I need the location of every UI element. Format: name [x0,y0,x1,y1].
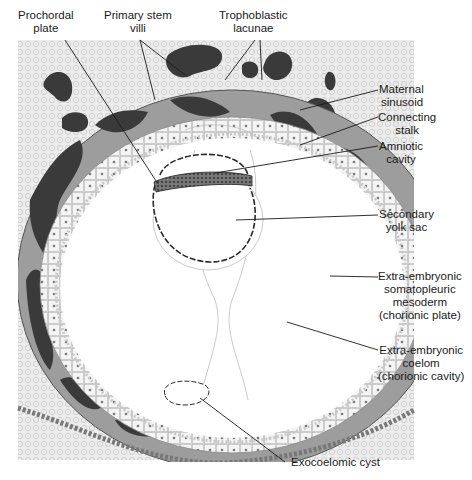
label-line: Exocoelomic cyst [291,456,380,469]
label-line: Trophoblastic [219,9,288,22]
label-line: lacunae [219,22,288,35]
label-line: Connecting [378,111,436,124]
label-maternal-sinusoid: Maternal sinusoid [379,83,424,109]
label-line: cavity [379,153,423,166]
label-line: yolk sac [379,221,434,234]
embryonic-disc-complex [153,154,263,270]
label-trophoblastic-lacunae: Trophoblastic lacunae [219,9,288,35]
label-somatopleuric-mesoderm: Extra-embryonic somatopleuric mesoderm (… [378,270,462,322]
label-connecting-stalk: Connecting stalk [378,111,436,137]
label-line: Amniotic [379,140,423,153]
label-line: mesoderm [378,296,462,309]
label-extraembryonic-coelom: Extra-embryonic coelom (chorionic cavity… [378,344,464,383]
label-line: coelom [378,357,464,370]
label-line: Extra-embryonic [378,344,464,357]
label-line: villi [104,22,172,35]
label-secondary-yolk-sac: Secondary yolk sac [379,208,434,234]
label-prochordal-plate: Prochordal plate [18,9,74,35]
label-exocoelomic-cyst: Exocoelomic cyst [291,456,380,469]
label-primary-stem-villi: Primary stem villi [104,9,172,35]
embryo-diagram [0,0,472,480]
label-line: Extra-embryonic [378,270,462,283]
label-line: Secondary [379,208,434,221]
label-amniotic-cavity: Amniotic cavity [379,140,423,166]
label-line: (chorionic cavity) [378,370,464,383]
label-line: Primary stem [104,9,172,22]
label-line: (chorionic plate) [378,309,462,322]
label-line: Maternal [379,83,424,96]
label-line: somatopleuric [378,283,462,296]
label-line: plate [18,22,74,35]
label-line: sinusoid [379,96,424,109]
label-line: stalk [378,124,436,137]
label-line: Prochordal [18,9,74,22]
